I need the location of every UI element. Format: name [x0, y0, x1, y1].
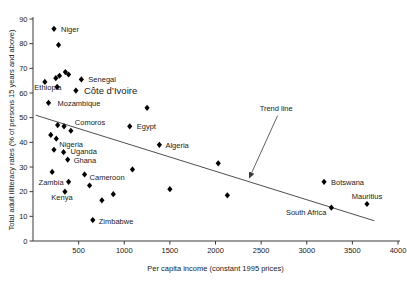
data-point: [167, 186, 172, 192]
data-point: [51, 26, 56, 32]
point-label: Ghana: [74, 156, 97, 165]
point-label: Niger: [61, 25, 79, 34]
data-point: [87, 182, 92, 188]
data-point: [68, 128, 73, 134]
y-tick-label: 90: [19, 15, 27, 24]
point-label: Kenya: [51, 193, 73, 202]
data-point: [157, 142, 162, 148]
trend-line-arrow: [249, 116, 277, 178]
trend-line: [36, 115, 375, 221]
y-axis-title: Total adult illiteracy rates (% of perso…: [7, 0, 16, 260]
chart-figure: 0102030405060708090500100015002000250030…: [0, 0, 407, 283]
data-point: [48, 132, 53, 138]
y-tick-label: 80: [19, 39, 27, 48]
data-point: [61, 149, 66, 155]
point-label: Zimbabwe: [99, 217, 134, 226]
data-point: [364, 201, 369, 207]
point-label: Botswana: [331, 178, 365, 187]
x-tick-label: 3500: [344, 246, 361, 255]
x-tick-label: 3000: [298, 246, 315, 255]
data-point: [51, 147, 56, 153]
x-tick-label: 2000: [207, 246, 224, 255]
data-point: [216, 160, 221, 166]
point-label: Algeria: [165, 141, 189, 150]
data-point: [130, 166, 135, 172]
data-point: [66, 179, 71, 185]
axes: [33, 17, 400, 241]
point-label: South Africa: [286, 208, 327, 217]
y-tick-label: 0: [23, 237, 27, 246]
y-tick-label: 30: [19, 163, 27, 172]
data-point: [79, 76, 84, 82]
data-point: [144, 105, 149, 111]
y-tick-label: 20: [19, 187, 27, 196]
y-tick-label: 10: [19, 212, 27, 221]
data-point: [127, 123, 132, 129]
data-point: [46, 100, 51, 106]
y-tick-label: 40: [19, 138, 27, 147]
point-label: Egypt: [137, 122, 157, 131]
point-label: Zambia: [39, 178, 65, 187]
point-label: Mozambique: [58, 99, 101, 108]
point-label: Comoros: [75, 118, 106, 127]
trend-line-annotation: Trend line: [260, 104, 293, 113]
data-point: [111, 191, 116, 197]
point-label: Mauritius: [352, 192, 383, 201]
y-tick-label: 50: [19, 113, 27, 122]
data-point: [54, 136, 59, 142]
x-tick-label: 500: [72, 246, 85, 255]
x-axis-title: Per capita income (constant 1995 prices): [33, 264, 398, 273]
data-point: [50, 169, 55, 175]
x-tick-label: 1000: [116, 246, 133, 255]
scatter-plot: 0102030405060708090500100015002000250030…: [0, 0, 407, 283]
point-label: Senegal: [88, 75, 116, 84]
x-tick-label: 2500: [253, 246, 270, 255]
x-tick-label: 1500: [162, 246, 179, 255]
data-point: [225, 192, 230, 198]
data-point: [329, 205, 334, 211]
data-point: [82, 171, 87, 177]
data-point: [56, 42, 61, 48]
point-label: Cameroon: [90, 173, 125, 182]
data-point: [99, 197, 104, 203]
data-point: [73, 87, 78, 93]
data-point: [321, 179, 326, 185]
data-point: [90, 217, 95, 223]
y-tick-label: 70: [19, 64, 27, 73]
y-tick-label: 60: [19, 89, 27, 98]
point-label: Côte d’Ivoire: [84, 85, 137, 96]
x-tick-label: 4000: [390, 246, 407, 255]
data-point: [65, 157, 70, 163]
